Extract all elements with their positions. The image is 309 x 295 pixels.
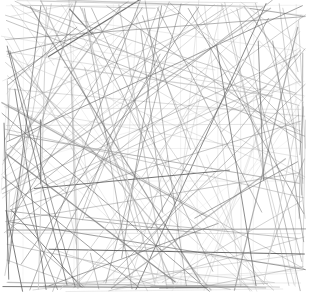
artwork-canvas	[0, 0, 309, 295]
line-art-svg	[0, 0, 309, 295]
